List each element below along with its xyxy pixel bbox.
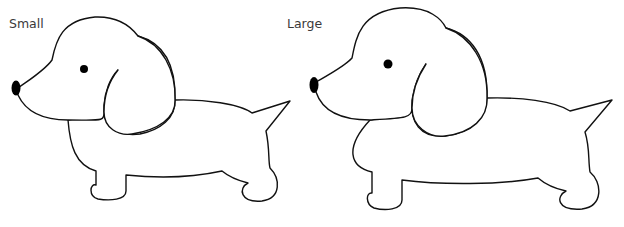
dog-small-icon [12, 17, 291, 201]
dog-large-nose [310, 77, 319, 93]
dog-large-icon [310, 8, 613, 210]
dog-small-eye [80, 65, 88, 73]
dogs-canvas [0, 0, 624, 227]
dog-large-eye [384, 60, 393, 69]
dog-small-nose [12, 81, 21, 96]
